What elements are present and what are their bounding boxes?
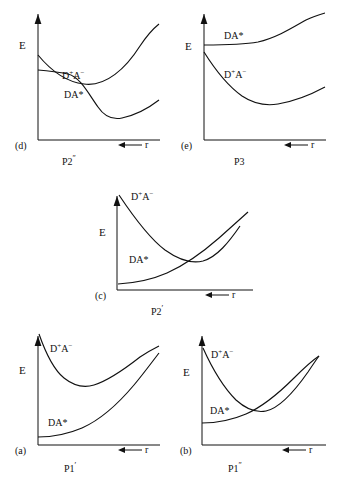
curve-label-charge-transfer: D+A−	[50, 343, 72, 354]
panel-tag: (c)	[95, 290, 106, 301]
left-arrow-icon	[118, 446, 142, 454]
y-axis-label: E	[99, 226, 106, 238]
y-axis-label: E	[183, 366, 190, 378]
curve-label-excited-state: DA*	[210, 405, 229, 416]
curve-label-excited-state: DA*	[48, 417, 67, 428]
panel-tag: (b)	[180, 445, 192, 456]
curve-excited-state	[38, 70, 159, 119]
x-axis-label-group: r	[284, 139, 314, 150]
left-arrow-icon	[205, 291, 229, 299]
x-axis-label-group: r	[282, 444, 312, 455]
plot-area-d: E D+A− DA* (d) r	[14, 8, 164, 153]
curves-svg-a	[14, 330, 164, 460]
x-axis-label: r	[145, 444, 148, 455]
curve-charge-transfer	[119, 195, 240, 262]
panel-tag: (a)	[15, 445, 26, 456]
curve-charge-transfer	[38, 24, 159, 84]
left-arrow-icon	[284, 141, 308, 149]
y-axis-label: E	[19, 39, 26, 51]
x-axis-label: r	[232, 289, 235, 300]
left-arrow-icon	[118, 141, 142, 149]
x-axis-label-group: r	[118, 444, 148, 455]
curve-label-excited-state: DA*	[224, 30, 243, 41]
x-axis-label: r	[311, 139, 314, 150]
x-axis-label: r	[145, 139, 148, 150]
plot-area-e: E DA* D+A− (e) r	[180, 8, 330, 153]
panel-tag: (d)	[15, 140, 27, 151]
plot-area-a: E D+A− DA* (a) r	[14, 330, 164, 460]
panel-caption: P2′	[151, 306, 163, 317]
curve-label-charge-transfer: D+A−	[224, 69, 246, 80]
panel-caption: P1′	[64, 463, 76, 474]
curve-label-excited-state: DA*	[64, 89, 83, 100]
curve-excited-state	[118, 212, 248, 284]
panel-a: E D+A− DA* (a) r P1′	[14, 330, 164, 490]
curves-svg-c	[95, 188, 255, 303]
x-axis-label: r	[309, 444, 312, 455]
panel-e: E DA* D+A− (e) r P3	[180, 8, 330, 168]
curve-label-charge-transfer: D+A−	[211, 349, 233, 360]
x-axis-label-group: r	[205, 289, 235, 300]
panel-c: E D+A− DA* (c) r P2′	[95, 188, 255, 318]
plot-area-b: E D+A− DA* (b) r	[180, 330, 330, 460]
panel-caption: P1″	[228, 463, 242, 474]
y-axis-label: E	[185, 40, 192, 52]
y-axis-label: E	[19, 364, 26, 376]
plot-area-c: E D+A− DA* (c) r	[95, 188, 255, 303]
panel-caption: P2″	[62, 156, 76, 167]
curve-charge-transfer	[204, 52, 325, 105]
panel-caption: P3	[234, 156, 245, 167]
curves-svg-d	[14, 8, 164, 153]
panel-tag: (e)	[181, 140, 192, 151]
left-arrow-icon	[282, 446, 306, 454]
panel-b: E D+A− DA* (b) r P1″	[180, 330, 330, 490]
curve-label-charge-transfer: D+A−	[62, 70, 84, 81]
curve-label-charge-transfer: D+A−	[131, 191, 153, 202]
curves-svg-e	[180, 8, 330, 153]
panel-d: E D+A− DA* (d) r P2″	[14, 8, 164, 168]
curves-svg-b	[180, 330, 330, 460]
curve-excited-state	[204, 13, 325, 45]
curve-label-excited-state: DA*	[129, 254, 148, 265]
x-axis-label-group: r	[118, 139, 148, 150]
